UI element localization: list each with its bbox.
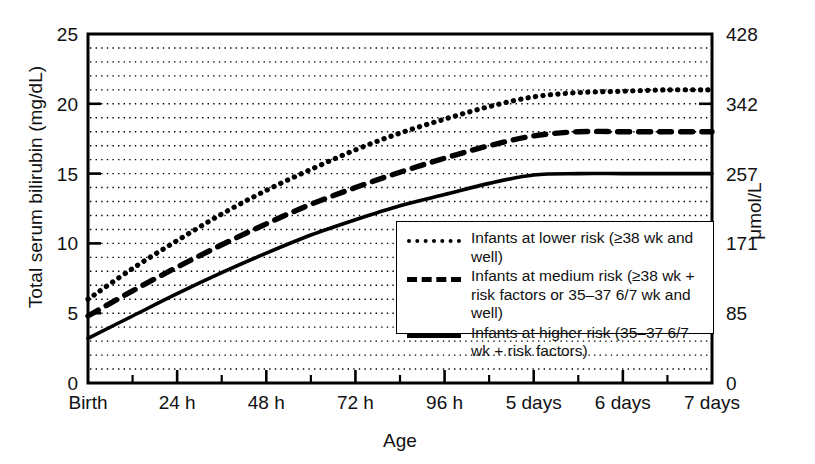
y-tick-label-left: 0	[36, 374, 78, 393]
chart-legend: Infants at lower risk (≥38 wk and well) …	[396, 221, 714, 334]
y-tick-label-right: 0	[726, 374, 776, 393]
legend-item-medium-risk: Infants at medium risk (≥38 wk + risk fa…	[403, 267, 707, 323]
x-tick-label: 96 h	[426, 392, 463, 414]
y-axis-left-ticks	[88, 104, 101, 313]
y-tick-label-right: 85	[726, 304, 776, 323]
y-axis-right-title: μmol/L	[744, 151, 766, 271]
legend-item-higher-risk: Infants at higher risk (35–37 6/7 wk + r…	[403, 324, 707, 361]
legend-label-higher-risk: Infants at higher risk (35–37 6/7 wk + r…	[471, 324, 707, 361]
x-tick-label: 7 days	[684, 392, 740, 414]
solid-line-key	[403, 326, 465, 345]
y-axis-left-title: Total serum bilirubin (mg/dL)	[25, 12, 47, 362]
y-tick-label-right: 342	[726, 94, 776, 113]
x-tick-label: 6 days	[595, 392, 651, 414]
x-tick-label: Birth	[68, 392, 107, 414]
legend-label-medium-risk: Infants at medium risk (≥38 wk + risk fa…	[471, 267, 707, 323]
x-tick-label: 5 days	[506, 392, 562, 414]
bilirubin-nomogram-figure: 0510152025 085171257342428 Birth24 h48 h…	[0, 0, 815, 464]
x-tick-label: 72 h	[337, 392, 374, 414]
x-axis-ticks	[133, 370, 668, 383]
dashed-line-key	[403, 269, 465, 288]
dotted-line-key	[403, 231, 465, 250]
legend-label-lower-risk: Infants at lower risk (≥38 wk and well)	[471, 229, 707, 266]
x-tick-label: 48 h	[248, 392, 285, 414]
x-axis-title: Age	[88, 430, 712, 452]
legend-item-lower-risk: Infants at lower risk (≥38 wk and well)	[403, 229, 707, 266]
y-tick-label-right: 428	[726, 25, 776, 44]
x-tick-label: 24 h	[159, 392, 196, 414]
